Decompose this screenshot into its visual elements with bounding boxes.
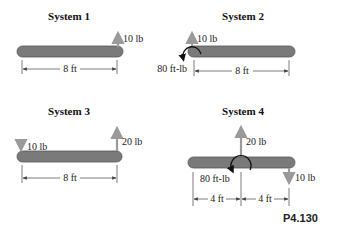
force-label: 20 lb — [246, 136, 266, 147]
force-label: 10 lb — [27, 141, 47, 152]
system-4-title: System 4 — [222, 105, 264, 117]
statics-diagram: System 1 10 lb 8 ft System 2 10 lb 80 ft… — [0, 0, 337, 238]
beam — [17, 46, 123, 57]
beam — [17, 151, 122, 162]
dimension-label: 8 ft — [63, 63, 77, 74]
force-label: 10 lb — [197, 33, 217, 44]
force-label: 20 lb — [122, 136, 142, 147]
beam — [188, 157, 295, 168]
dimension-label: 4 ft — [258, 193, 272, 204]
dimension-label: 4 ft — [210, 193, 224, 204]
system-4: System 4 20 lb 80 ft-lb 10 lb 4 ft 4 ft — [188, 105, 315, 206]
moment-label: 80 ft-lb — [157, 63, 187, 74]
system-3: System 3 10 lb 20 lb 8 ft — [17, 105, 142, 183]
moment-label: 80 ft-lb — [200, 173, 230, 184]
force-label: 10 lb — [295, 172, 315, 183]
force-label: 10 lb — [123, 33, 143, 44]
dimension-label: 8 ft — [63, 172, 77, 183]
system-2: System 2 10 lb 80 ft-lb 8 ft — [157, 10, 295, 76]
dimension-label: 8 ft — [235, 65, 249, 76]
beam — [188, 46, 295, 57]
system-1: System 1 10 lb 8 ft — [17, 10, 143, 74]
system-1-title: System 1 — [48, 10, 90, 22]
system-3-title: System 3 — [48, 105, 90, 117]
system-2-title: System 2 — [222, 10, 264, 22]
figure-label: P4.130 — [283, 212, 318, 224]
